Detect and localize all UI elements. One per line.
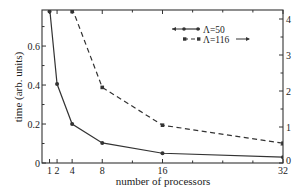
x-axis: 12481632 bbox=[47, 10, 288, 176]
x-tick-label: 4 bbox=[70, 165, 75, 176]
y-tick-label-left: 0.6 bbox=[28, 41, 41, 52]
legend-label: Λ=50 bbox=[203, 25, 225, 35]
y-tick-label-right: 3 bbox=[286, 50, 291, 61]
y-axis-label: time (arb. units) bbox=[12, 51, 25, 122]
data-point bbox=[161, 123, 165, 127]
legend-item-lambda-50: Λ=50 bbox=[172, 25, 225, 35]
y-tick-label-left: 0.2 bbox=[28, 119, 41, 130]
x-tick-label: 32 bbox=[278, 165, 288, 176]
plot-border bbox=[42, 10, 283, 163]
chart: 12481632 00.20.40.6 01234 Λ=50 Λ=116 num… bbox=[0, 0, 304, 195]
y-tick-label-right: 0 bbox=[286, 155, 291, 166]
arrow-right-icon bbox=[246, 37, 250, 41]
plot-frame bbox=[42, 10, 283, 163]
legend: Λ=50 Λ=116 bbox=[172, 25, 250, 45]
data-point bbox=[100, 86, 104, 90]
data-point bbox=[161, 151, 165, 155]
legend-item-lambda-116: Λ=116 bbox=[183, 35, 250, 45]
y-tick-label-right: 2 bbox=[286, 86, 291, 97]
series-line bbox=[50, 7, 283, 157]
series-line bbox=[72, 8, 283, 143]
y-axis-left: 00.20.40.6 bbox=[28, 27, 47, 169]
y-tick-label-left: 0.4 bbox=[28, 80, 41, 91]
x-tick-label: 2 bbox=[55, 165, 60, 176]
data-point bbox=[100, 141, 104, 145]
data-point bbox=[48, 10, 52, 14]
x-tick-label: 1 bbox=[47, 165, 52, 176]
data-point bbox=[281, 141, 285, 145]
series-layer bbox=[48, 7, 285, 159]
legend-label: Λ=116 bbox=[203, 35, 229, 45]
x-tick-label: 8 bbox=[100, 165, 105, 176]
data-point bbox=[70, 10, 74, 14]
y-tick-label-right: 1 bbox=[286, 122, 291, 133]
data-point bbox=[281, 155, 285, 159]
data-point bbox=[70, 122, 74, 126]
y-tick-label-right: 4 bbox=[286, 14, 291, 25]
data-point bbox=[55, 82, 59, 86]
y-tick-label-left: 0 bbox=[35, 158, 40, 169]
series-lambda-50 bbox=[48, 7, 285, 159]
arrow-left-icon bbox=[172, 27, 176, 31]
x-axis-label: number of processors bbox=[116, 175, 211, 187]
